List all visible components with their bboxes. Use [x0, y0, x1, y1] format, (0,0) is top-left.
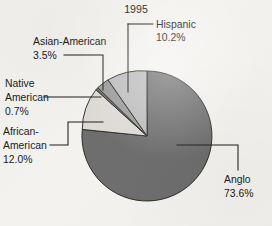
- label-asian-american-name: Asian-American: [33, 36, 107, 47]
- label-african-american-name-line2: American: [3, 140, 47, 151]
- leader-line-asian-american: [64, 55, 103, 90]
- label-native-american-value: 0.7%: [5, 106, 29, 117]
- label-african-american-value: 12.0%: [3, 154, 32, 165]
- label-african-american-name-line1: African-: [3, 126, 39, 137]
- label-asian-american: Asian-American 3.5%: [33, 36, 107, 61]
- label-hispanic-name: Hispanic: [156, 19, 196, 30]
- label-anglo-value: 73.6%: [224, 188, 253, 199]
- label-hispanic: Hispanic 10.2%: [156, 19, 196, 43]
- label-native-american: Native American 0.7%: [5, 78, 49, 117]
- pie-chart-figure: 1995 Hispanic 10.2% Asian-American 3.5% …: [0, 0, 272, 226]
- label-african-american: African- American 12.0%: [3, 126, 47, 165]
- label-native-american-name-line2: American: [5, 92, 49, 103]
- label-asian-american-value: 3.5%: [33, 50, 57, 61]
- pie-chart-svg: 1995 Hispanic 10.2% Asian-American 3.5% …: [0, 0, 272, 226]
- chart-title: 1995: [124, 3, 148, 15]
- pie-slices: [82, 71, 212, 201]
- label-native-american-name-line1: Native: [5, 78, 35, 89]
- label-hispanic-value: 10.2%: [156, 32, 185, 43]
- label-anglo-name: Anglo: [224, 174, 251, 185]
- label-anglo: Anglo 73.6%: [224, 174, 253, 199]
